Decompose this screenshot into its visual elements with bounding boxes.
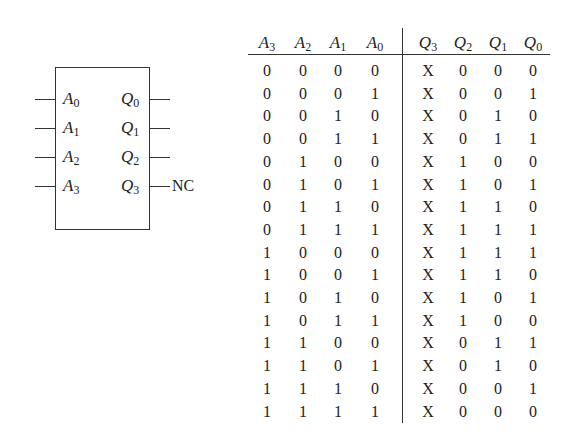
column-header: A0: [360, 34, 390, 53]
table-cell: 0: [518, 199, 548, 215]
input-pin-line: [35, 157, 55, 158]
table-cell: 0: [288, 290, 318, 306]
signal-name: Q: [121, 147, 133, 166]
table-cell: 0: [448, 63, 478, 79]
table-cell: 0: [448, 335, 478, 351]
table-cell: 1: [323, 290, 353, 306]
table-cell: 0: [252, 63, 282, 79]
column-header: Q0: [518, 34, 548, 53]
table-cell: X: [413, 199, 443, 215]
signal-index: 3: [73, 183, 79, 197]
table-cell: 1: [448, 267, 478, 283]
table-cell: 0: [323, 177, 353, 193]
table-cell: 0: [252, 199, 282, 215]
signal-name: A: [63, 176, 73, 195]
table-cell: 1: [448, 177, 478, 193]
table-cell: 1: [252, 358, 282, 374]
table-cell: X: [413, 335, 443, 351]
table-cell: 1: [252, 267, 282, 283]
table-cell: 0: [483, 404, 513, 420]
table-cell: 1: [483, 267, 513, 283]
input-label: A1: [63, 119, 79, 138]
table-cell: 0: [448, 381, 478, 397]
table-cell: 0: [288, 63, 318, 79]
signal-name: A: [259, 33, 269, 52]
table-cell: 0: [252, 86, 282, 102]
table-cell: 1: [288, 335, 318, 351]
input-pin-line: [35, 128, 55, 129]
table-cell: 0: [288, 245, 318, 261]
signal-index: 0: [73, 96, 79, 110]
table-cell: 1: [252, 381, 282, 397]
table-cell: 1: [448, 222, 478, 238]
table-cell: 1: [288, 154, 318, 170]
table-cell: 1: [483, 108, 513, 124]
signal-index: 2: [466, 40, 472, 54]
output-pin-line: [150, 157, 170, 158]
table-cell: 1: [483, 222, 513, 238]
table-cell: 1: [483, 335, 513, 351]
output-label: Q1: [121, 119, 139, 138]
table-cell: 0: [288, 267, 318, 283]
table-cell: X: [413, 154, 443, 170]
table-cell: X: [413, 131, 443, 147]
signal-index: 1: [73, 125, 79, 139]
table-cell: X: [413, 290, 443, 306]
table-cell: 1: [518, 381, 548, 397]
table-cell: 0: [448, 358, 478, 374]
signal-name: Q: [489, 33, 501, 52]
table-cell: 1: [288, 358, 318, 374]
table-cell: 1: [252, 404, 282, 420]
table-cell: 0: [518, 267, 548, 283]
column-header: Q2: [448, 34, 478, 53]
table-cell: X: [413, 177, 443, 193]
table-cell: 0: [323, 86, 353, 102]
table-cell: 1: [448, 313, 478, 329]
table-cell: 0: [360, 154, 390, 170]
column-header: A3: [252, 34, 282, 53]
column-divider: [402, 28, 403, 423]
table-cell: 1: [323, 108, 353, 124]
signal-index: 2: [305, 40, 311, 54]
header-rule: [248, 54, 550, 55]
table-cell: 1: [518, 335, 548, 351]
table-cell: 0: [252, 177, 282, 193]
table-cell: 0: [360, 63, 390, 79]
table-cell: 0: [360, 199, 390, 215]
table-cell: 1: [448, 199, 478, 215]
signal-index: 1: [501, 40, 507, 54]
table-cell: 0: [323, 335, 353, 351]
table-cell: 0: [483, 381, 513, 397]
table-cell: 1: [518, 86, 548, 102]
nc-label: NC: [172, 178, 194, 194]
table-cell: 1: [518, 245, 548, 261]
table-cell: 1: [483, 245, 513, 261]
table-cell: 1: [288, 381, 318, 397]
table-cell: 0: [518, 63, 548, 79]
input-pin-line: [35, 186, 55, 187]
signal-name: Q: [524, 33, 536, 52]
input-pin-line: [35, 99, 55, 100]
table-cell: 0: [448, 86, 478, 102]
table-cell: 1: [323, 199, 353, 215]
table-cell: 1: [448, 290, 478, 306]
table-cell: 0: [483, 290, 513, 306]
input-label: A2: [63, 148, 79, 167]
table-cell: X: [413, 267, 443, 283]
table-cell: 0: [323, 267, 353, 283]
table-cell: 0: [483, 313, 513, 329]
signal-index: 3: [133, 183, 139, 197]
table-cell: 1: [252, 335, 282, 351]
table-cell: 1: [448, 245, 478, 261]
table-cell: 1: [518, 222, 548, 238]
table-cell: 1: [518, 177, 548, 193]
output-label: Q0: [121, 90, 139, 109]
table-cell: 0: [483, 177, 513, 193]
table-cell: 0: [483, 154, 513, 170]
table-cell: 1: [323, 222, 353, 238]
signal-index: 3: [431, 40, 437, 54]
table-cell: 0: [360, 381, 390, 397]
output-label: Q2: [121, 148, 139, 167]
signal-name: A: [63, 147, 73, 166]
column-header: A2: [288, 34, 318, 53]
